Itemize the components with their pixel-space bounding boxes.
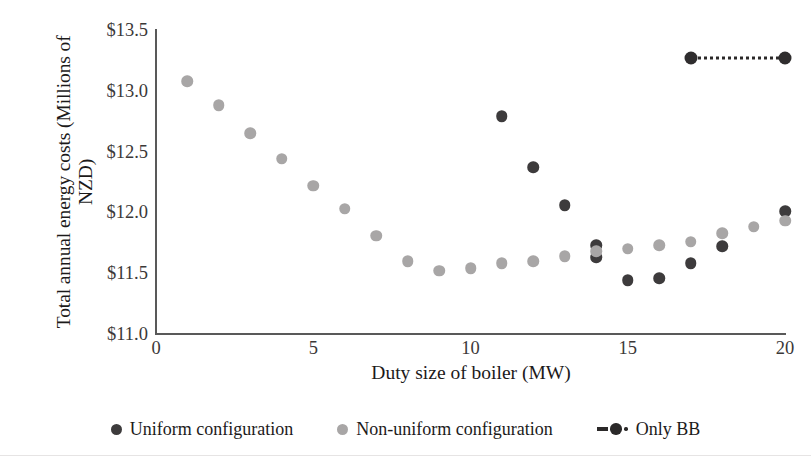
data-point bbox=[276, 153, 288, 165]
y-axis-tick-labels: $11.0$11.5$12.0$12.5$13.0$13.5 bbox=[52, 0, 148, 461]
legend-item-label: Uniform configuration bbox=[130, 419, 293, 440]
data-point bbox=[748, 221, 760, 233]
legend-item-label: Non-uniform configuration bbox=[356, 419, 552, 440]
y-axis-tick-label: $12.5 bbox=[56, 141, 148, 162]
y-axis-tick-label: $13.0 bbox=[56, 80, 148, 101]
data-point bbox=[496, 111, 508, 123]
data-point bbox=[716, 227, 728, 239]
data-point bbox=[653, 272, 665, 284]
y-axis-tick-label: $12.0 bbox=[56, 202, 148, 223]
x-axis-title: Duty size of boiler (MW) bbox=[156, 362, 786, 384]
y-axis-tick-label: $13.5 bbox=[56, 20, 148, 41]
legend-item-label: Only BB bbox=[636, 419, 701, 440]
only-bb-dotted-line bbox=[691, 56, 785, 59]
data-point bbox=[528, 162, 540, 174]
legend-item[interactable]: Uniform configuration bbox=[111, 419, 293, 440]
data-point bbox=[182, 75, 194, 87]
data-point bbox=[685, 258, 697, 270]
chart-legend: Uniform configurationNon-uniform configu… bbox=[0, 412, 811, 446]
data-point bbox=[716, 241, 728, 253]
x-axis-tick-label: 0 bbox=[151, 338, 160, 359]
data-point bbox=[308, 180, 320, 192]
data-point bbox=[779, 215, 791, 227]
data-point bbox=[653, 239, 665, 251]
data-point bbox=[213, 100, 225, 112]
legend-divider bbox=[0, 455, 811, 456]
legend-item[interactable]: Only BB bbox=[597, 419, 700, 440]
x-axis-tick-label: 5 bbox=[309, 338, 318, 359]
data-point bbox=[591, 246, 603, 258]
data-point bbox=[433, 265, 445, 277]
data-point bbox=[402, 255, 414, 267]
data-point bbox=[622, 275, 634, 287]
data-point bbox=[528, 255, 540, 267]
data-point bbox=[559, 199, 571, 211]
legend-marker-only-bb-icon bbox=[597, 423, 628, 435]
x-axis-tick-label: 20 bbox=[776, 338, 795, 359]
chart-figure: Total annual energy costs (Millions of N… bbox=[0, 0, 811, 461]
data-point bbox=[684, 51, 697, 64]
data-point bbox=[622, 243, 634, 255]
data-point bbox=[559, 250, 571, 262]
data-point bbox=[685, 236, 697, 248]
x-axis-tick-label: 15 bbox=[619, 338, 638, 359]
plot-area bbox=[156, 30, 785, 334]
x-axis-tick-label: 10 bbox=[461, 338, 480, 359]
data-point bbox=[496, 258, 508, 270]
legend-marker-nonuni-icon bbox=[337, 424, 348, 435]
legend-marker-uniform-icon bbox=[111, 424, 122, 435]
data-point bbox=[779, 51, 792, 64]
data-point bbox=[245, 128, 257, 140]
legend-item[interactable]: Non-uniform configuration bbox=[337, 419, 552, 440]
y-axis-tick-label: $11.5 bbox=[56, 263, 148, 284]
data-point bbox=[465, 263, 477, 275]
data-point bbox=[370, 230, 382, 242]
data-point bbox=[339, 203, 351, 215]
y-axis-tick-label: $11.0 bbox=[56, 324, 148, 345]
